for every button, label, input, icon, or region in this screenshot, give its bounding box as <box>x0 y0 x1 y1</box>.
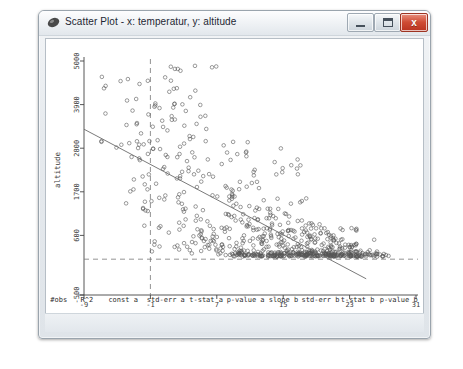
scatter-plot-canvas[interactable]: -5006001700280039005000-9-17152331temper… <box>46 39 423 313</box>
y-tick-label: 2800 <box>73 140 81 157</box>
plot-client-area: -5006001700280039005000-9-17152331temper… <box>45 38 424 314</box>
maximize-button[interactable] <box>374 13 401 32</box>
close-button[interactable]: x <box>400 13 428 32</box>
stats-header-4: t-stat a <box>187 295 226 305</box>
status-strip <box>45 313 424 332</box>
app-plot-icon <box>47 16 60 29</box>
y-tick-label: 1700 <box>73 183 81 200</box>
window-title: Scatter Plot - x: temperatur, y: altitud… <box>65 16 236 27</box>
y-tick-label: 600 <box>73 229 81 242</box>
scatter-plot-window: Scatter Plot - x: temperatur, y: altitud… <box>38 10 431 339</box>
stats-header-9: p-value b <box>375 295 422 305</box>
maximize-icon <box>383 18 393 27</box>
stats-header-7: std-err b <box>301 295 340 305</box>
minimize-button[interactable] <box>347 13 374 32</box>
stats-header-6: slope b <box>266 295 301 305</box>
stats-header-5: p-value a <box>225 295 265 305</box>
stats-header-3: std-err a <box>145 295 187 305</box>
y-tick-label: 5000 <box>73 53 81 70</box>
plot-background <box>46 39 423 313</box>
close-icon: x <box>411 18 417 28</box>
stats-header-0: #obs <box>45 295 72 305</box>
minimize-icon <box>356 25 365 27</box>
y-axis-title: altitude <box>53 151 62 188</box>
y-tick-label: 3900 <box>73 96 81 113</box>
stats-header-1: R^2 <box>72 295 101 305</box>
window-title-bar[interactable]: Scatter Plot - x: temperatur, y: altitud… <box>39 11 430 36</box>
stats-header-row: #obsR^2const astd-err at-stat ap-value a… <box>45 295 422 305</box>
stats-header-2: const a <box>101 295 145 305</box>
stats-header-8: t-stat b <box>340 295 375 305</box>
